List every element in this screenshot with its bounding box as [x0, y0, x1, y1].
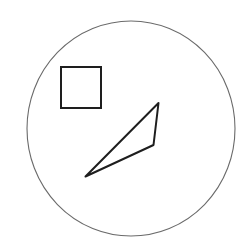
diagram-canvas: [0, 0, 239, 240]
outer-circle: [27, 21, 235, 236]
square-shape: [61, 67, 101, 108]
geometry-figure: [0, 0, 239, 240]
triangle-shape: [86, 103, 159, 177]
